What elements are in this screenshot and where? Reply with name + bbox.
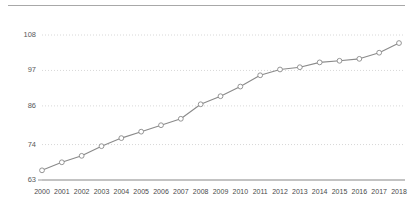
x-axis-tick-label: 2000 [31, 188, 53, 195]
data-point-marker[interactable] [337, 58, 342, 63]
x-axis-tick-label: 2005 [130, 188, 152, 195]
data-point-marker[interactable] [377, 50, 382, 55]
data-point-marker[interactable] [79, 153, 84, 158]
data-point-marker[interactable] [297, 65, 302, 70]
x-axis-tick-label: 2011 [249, 188, 271, 195]
series-line-group [42, 43, 399, 170]
gridlines-group [42, 35, 405, 180]
x-axis-tick-label: 2003 [91, 188, 113, 195]
data-point-marker[interactable] [139, 129, 144, 134]
x-axis-tick-label: 2007 [170, 188, 192, 195]
x-axis-tick-label: 2014 [309, 188, 331, 195]
chart-plot-svg [0, 0, 413, 204]
data-point-marker[interactable] [218, 94, 223, 99]
data-point-marker[interactable] [238, 84, 243, 89]
x-axis-tick-label: 2008 [190, 188, 212, 195]
x-axis-tick-label: 2002 [71, 188, 93, 195]
data-point-marker[interactable] [59, 160, 64, 165]
x-axis-tick-label: 2004 [110, 188, 132, 195]
y-axis-tick-label: 86 [10, 102, 36, 110]
series-line [42, 43, 399, 170]
x-axis-tick-label: 2016 [348, 188, 370, 195]
data-point-marker[interactable] [119, 136, 124, 141]
y-axis-tick-label: 108 [10, 31, 36, 39]
data-point-marker[interactable] [317, 60, 322, 65]
x-axis-tick-label: 2009 [210, 188, 232, 195]
data-point-marker[interactable] [258, 73, 263, 78]
x-axis-tick-label: 2015 [329, 188, 351, 195]
y-axis-tick-label: 63 [10, 176, 36, 184]
data-point-marker[interactable] [397, 41, 402, 46]
data-point-marker[interactable] [178, 116, 183, 121]
data-point-marker[interactable] [278, 67, 283, 72]
x-axis-tick-label: 2006 [150, 188, 172, 195]
chart-page: 63748697108 2000200120022003200420052006… [0, 0, 413, 204]
x-axis-tick-label: 2001 [51, 188, 73, 195]
data-point-marker[interactable] [40, 168, 45, 173]
x-axis-tick-label: 2017 [368, 188, 390, 195]
data-point-marker[interactable] [159, 123, 164, 128]
x-axis-tick-label: 2012 [269, 188, 291, 195]
line-chart: 63748697108 2000200120022003200420052006… [0, 0, 413, 204]
y-axis-tick-label: 74 [10, 141, 36, 149]
data-point-marker[interactable] [357, 56, 362, 61]
x-axis-tick-label: 2010 [229, 188, 251, 195]
data-point-marker[interactable] [198, 102, 203, 107]
y-axis-tick-label: 97 [10, 66, 36, 74]
x-axis-tick-label: 2018 [388, 188, 410, 195]
data-point-marker[interactable] [99, 144, 104, 149]
x-axis-tick-label: 2013 [289, 188, 311, 195]
